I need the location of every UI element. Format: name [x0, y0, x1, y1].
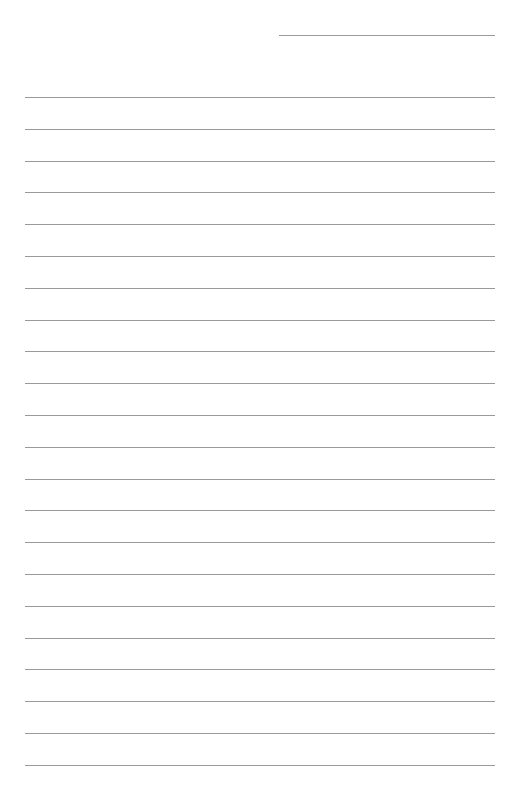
ruled-line	[25, 479, 495, 480]
ruled-line	[25, 638, 495, 639]
ruled-line	[25, 224, 495, 225]
ruled-line	[25, 129, 495, 130]
ruled-line	[25, 97, 495, 98]
ruled-line	[25, 701, 495, 702]
ruled-line	[25, 256, 495, 257]
ruled-line	[25, 542, 495, 543]
ruled-line	[25, 447, 495, 448]
ruled-line	[25, 669, 495, 670]
ruled-line	[25, 510, 495, 511]
ruled-line	[25, 351, 495, 352]
ruled-line	[25, 288, 495, 289]
ruled-line	[25, 606, 495, 607]
ruled-line	[25, 574, 495, 575]
ruled-line	[25, 192, 495, 193]
header-name-line	[279, 35, 495, 36]
ruled-line	[25, 161, 495, 162]
ruled-line	[25, 733, 495, 734]
ruled-line	[25, 415, 495, 416]
ruled-line	[25, 320, 495, 321]
ruled-line	[25, 765, 495, 766]
ruled-line	[25, 383, 495, 384]
